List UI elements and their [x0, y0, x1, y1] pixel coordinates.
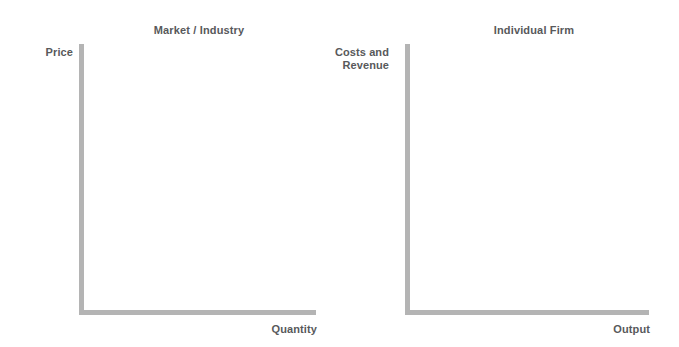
y-axis-line-market-industry: [79, 44, 84, 315]
chart-panel-individual-firm: Individual Firm Costs and Revenue Output: [339, 0, 679, 347]
x-axis-label-output: Output: [529, 323, 650, 336]
y-axis-line-individual-firm: [405, 44, 410, 315]
x-axis-label-quantity: Quantity: [196, 323, 317, 336]
figure-canvas: Market / Industry Price Quantity Individ…: [0, 0, 679, 347]
chart-title-individual-firm: Individual Firm: [434, 24, 634, 37]
chart-panel-market-industry: Market / Industry Price Quantity: [0, 0, 339, 347]
chart-title-market-industry: Market / Industry: [99, 24, 299, 37]
x-axis-line-market-industry: [79, 310, 316, 315]
x-axis-line-individual-firm: [405, 310, 649, 315]
y-axis-label-costs-and-revenue: Costs and Revenue: [329, 46, 389, 72]
y-axis-label-price: Price: [0, 46, 73, 59]
y-axis-label-line-2: Revenue: [342, 59, 389, 71]
y-axis-label-line-1: Costs and: [335, 46, 389, 58]
